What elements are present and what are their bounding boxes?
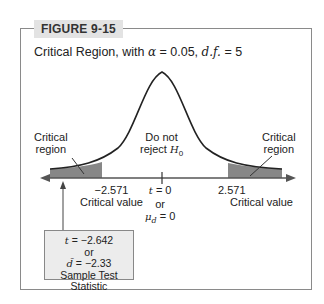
- left-region-label: Criticalregion: [34, 131, 68, 155]
- left-critical-value: −2.571Critical value: [80, 184, 143, 208]
- center-mu-line: μd = 0: [145, 210, 175, 228]
- sample-stat-arrowhead: [60, 181, 66, 189]
- axis-arrow-left: [40, 174, 50, 182]
- left-critical-region: [50, 162, 102, 178]
- reject-text: reject: [140, 143, 170, 155]
- stat-d-value: = −2.33: [73, 257, 112, 269]
- right-critical-value-caption: Critical value: [218, 196, 293, 208]
- h-symbol: H: [170, 144, 179, 155]
- center-value-label: t = 0orμd = 0: [145, 184, 175, 228]
- right-region-label-line2: region: [262, 143, 296, 155]
- do-not-reject-line2: reject H0: [140, 143, 183, 160]
- center-t-line: t = 0: [145, 184, 175, 198]
- do-not-reject-line1: Do not: [140, 131, 183, 143]
- left-region-label-line1: Critical: [34, 131, 68, 143]
- do-not-reject-label: Do notreject H0: [140, 131, 183, 160]
- stat-caption: Sample Test Statistic: [45, 270, 133, 293]
- stat-d-line: d̄ = −2.33: [45, 258, 133, 270]
- h-subscript: 0: [179, 149, 183, 158]
- left-critical-value-number: −2.571: [80, 184, 143, 196]
- t-value: = 0: [153, 184, 172, 196]
- mu-value: = 0: [157, 210, 176, 222]
- center-or: or: [145, 198, 175, 211]
- right-region-label: Criticalregion: [262, 131, 296, 155]
- axis-arrow-right: [286, 174, 296, 182]
- right-critical-value: 2.571Critical value: [218, 184, 293, 208]
- right-region-label-line1: Critical: [262, 131, 296, 143]
- stat-t-line: t = −2.642: [45, 235, 133, 247]
- sample-test-statistic-box: t = −2.642 or d̄ = −2.33 Sample Test Sta…: [44, 230, 134, 280]
- stat-t-value: = −2.642: [69, 234, 113, 246]
- right-critical-region: [228, 163, 282, 178]
- right-critical-value-number: 2.571: [218, 184, 293, 196]
- left-region-label-line2: region: [34, 143, 68, 155]
- left-critical-value-caption: Critical value: [80, 196, 143, 208]
